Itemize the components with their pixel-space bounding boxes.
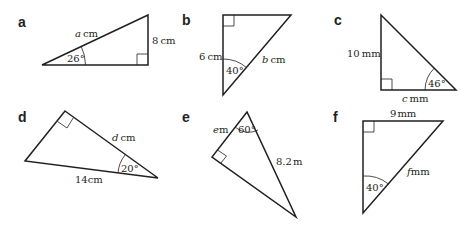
- side-e-label: 8.2m: [276, 156, 303, 167]
- triangle-f-label: f: [333, 109, 338, 125]
- right-angle-marker-d: [58, 118, 74, 129]
- triangle-e-label: e: [182, 109, 190, 125]
- unknown-d-label: dcm: [112, 132, 136, 143]
- triangle-e: e 60° em 8.2m: [182, 109, 303, 217]
- side-c-label: 10mm: [347, 48, 381, 59]
- side-d-label: 14cm: [75, 174, 103, 185]
- right-angle-marker-f: [363, 121, 374, 132]
- unknown-c-label: cmm: [402, 93, 429, 104]
- angle-d-value: 20°: [121, 163, 139, 174]
- right-angle-marker-b: [223, 15, 234, 26]
- triangle-c: c 46° 10mm cmm: [334, 12, 456, 104]
- triangle-c-label: c: [334, 12, 342, 28]
- angle-b-value: 40°: [226, 65, 244, 76]
- angle-e-value: 60°: [238, 124, 256, 135]
- right-angle-marker-a: [137, 54, 148, 65]
- triangle-f-shape: [363, 121, 443, 213]
- angle-a-value: 26°: [67, 53, 85, 64]
- triangle-b-label: b: [182, 12, 191, 28]
- side-f-label: 9mm: [390, 108, 417, 119]
- unknown-e-label: em: [213, 124, 229, 135]
- triangle-b: b 40° 6cm bcm: [182, 12, 291, 95]
- side-a-label: 8cm: [152, 35, 176, 46]
- triangle-f: f 40° 9mm fmm: [333, 108, 443, 213]
- hypotenuse-a-label: acm: [75, 28, 99, 39]
- angle-f-value: 40°: [366, 182, 384, 193]
- hypotenuse-b-label: bcm: [262, 54, 286, 65]
- triangle-a-label: a: [18, 14, 26, 30]
- triangle-d-label: d: [18, 109, 27, 125]
- side-b-label: 6cm: [199, 51, 223, 62]
- triangle-a: a 26° acm 8cm: [18, 14, 176, 65]
- right-angle-marker-c: [381, 79, 392, 90]
- triangle-a-shape: [42, 15, 148, 65]
- unknown-f-label: fmm: [406, 166, 430, 177]
- triangles-figure: a 26° acm 8cm b 40° 6cm bcm c 46° 10mm c…: [0, 0, 461, 235]
- triangle-d: d 20° dcm 14cm: [18, 109, 158, 185]
- angle-c-value: 46°: [428, 78, 446, 89]
